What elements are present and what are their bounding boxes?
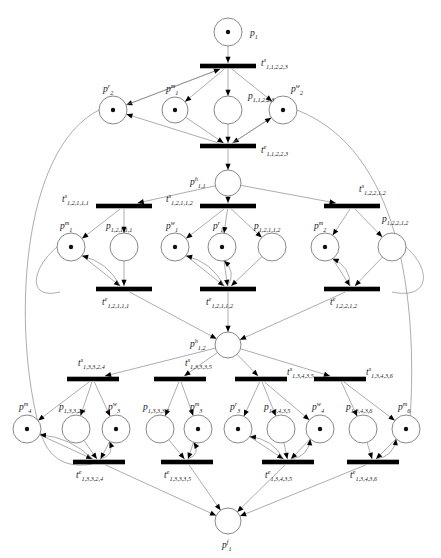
- place-pm-3[interactable]: [184, 415, 212, 443]
- place-pw-1-label: pw1: [165, 219, 178, 233]
- transition-te-13436-bar[interactable]: [347, 460, 399, 465]
- arrowhead-loop-te12212-pm2: [333, 259, 340, 264]
- place-pr-1[interactable]: [208, 233, 236, 261]
- place-pm-6[interactable]: [392, 415, 420, 443]
- place-pw-1[interactable]: [161, 233, 189, 261]
- transition-te-13435[interactable]: [262, 460, 314, 465]
- transition-ts-12112-bar[interactable]: [200, 204, 256, 209]
- place-pw-4[interactable]: [306, 415, 334, 443]
- place-p-13335-circle[interactable]: [146, 415, 174, 443]
- transition-te-11223[interactable]: [200, 144, 256, 149]
- transition-te-13324-bar[interactable]: [73, 460, 125, 465]
- place-pw-4-token: [318, 427, 322, 431]
- transition-te-12212-label: te1,2,2,1,2: [330, 295, 357, 309]
- place-pf-1-circle[interactable]: [215, 508, 241, 534]
- arc-ph11-to-ts12212: [241, 185, 336, 203]
- resource-loop-layer: [40, 255, 398, 459]
- transition-ts-13324[interactable]: [67, 377, 119, 382]
- arrowhead-ts13436-to-pm6: [388, 415, 395, 421]
- transition-te-11223-bar[interactable]: [200, 144, 256, 149]
- transition-te-13335-bar[interactable]: [161, 460, 213, 465]
- transition-te-13435-bar[interactable]: [262, 460, 314, 465]
- place-p-13324-label: p1,3,3,2,4: [58, 402, 85, 414]
- arrowhead-ts11223-to-pm1t: [185, 96, 191, 102]
- arc-ts12111-to-pm1: [82, 209, 120, 238]
- place-pm-1-top-token: [173, 108, 177, 112]
- place-pw-3-label: pw3: [107, 400, 120, 414]
- place-p-11223[interactable]: [214, 96, 242, 124]
- place-p-13324[interactable]: [62, 415, 90, 443]
- transition-ts-13335-bar[interactable]: [154, 377, 206, 382]
- transition-ts-13436-bar[interactable]: [314, 377, 366, 382]
- transition-te-13324[interactable]: [73, 460, 125, 465]
- place-p-13436-circle[interactable]: [349, 415, 377, 443]
- place-pr-1-label: pr1: [212, 219, 223, 233]
- transition-ts-11223-bar[interactable]: [200, 64, 256, 69]
- transition-te-12112-bar[interactable]: [200, 287, 256, 292]
- transition-te-13335[interactable]: [161, 460, 213, 465]
- place-pw-2-token: [281, 108, 285, 112]
- place-ph-11-label: ph1,1: [189, 175, 206, 189]
- transition-ts-13436[interactable]: [314, 377, 366, 382]
- transition-ts-13435[interactable]: [235, 377, 287, 382]
- place-pr-2[interactable]: [99, 96, 127, 124]
- place-pf-1[interactable]: [215, 508, 241, 534]
- arc-te12111-to-ph12: [130, 292, 217, 339]
- transition-te-12111[interactable]: [96, 287, 152, 292]
- transition-ts-13435-bar[interactable]: [235, 377, 287, 382]
- place-pm-6-token: [404, 427, 408, 431]
- place-p-12212[interactable]: [378, 233, 406, 261]
- arrowhead-ts13435-to-pw4: [303, 414, 309, 420]
- arc-ts13436-to-pm6: [344, 382, 395, 421]
- transition-ts-12212[interactable]: [324, 204, 380, 209]
- place-p-13324-circle[interactable]: [62, 415, 90, 443]
- place-pm-4[interactable]: [13, 415, 41, 443]
- place-pm-1-top-label: pm1: [165, 82, 178, 96]
- transition-ts-13324-label: ts1,3,3,2,4: [78, 356, 105, 370]
- place-p-12112-circle[interactable]: [258, 233, 286, 261]
- place-ph-12[interactable]: [215, 332, 241, 358]
- place-p-12212-circle[interactable]: [378, 233, 406, 261]
- arc-te13324-to-pf1: [106, 465, 217, 516]
- place-p-1[interactable]: [214, 18, 242, 46]
- place-ph-11[interactable]: [215, 170, 241, 196]
- place-ph-11-circle[interactable]: [215, 170, 241, 196]
- transition-te-13436-label: te1,3,4,3,6: [350, 468, 378, 482]
- transition-te-12111-bar[interactable]: [96, 287, 152, 292]
- place-pm-4-label: pm4: [18, 400, 31, 414]
- place-p-12111-circle[interactable]: [110, 233, 138, 261]
- transition-te-13335-label: te1,3,3,3,5: [164, 468, 191, 482]
- transition-te-12112[interactable]: [200, 287, 256, 292]
- arrowhead-te11223-to-pw2: [265, 118, 272, 124]
- transition-ts-12111-label: ts1,2,1,1,1: [62, 192, 89, 206]
- transition-te-12212-bar[interactable]: [324, 287, 380, 292]
- place-pm-1[interactable]: [57, 233, 85, 261]
- place-p-11223-circle[interactable]: [214, 96, 242, 124]
- transition-ts-12212-bar[interactable]: [324, 204, 380, 209]
- place-p-13435[interactable]: [267, 415, 295, 443]
- place-p-13436[interactable]: [349, 415, 377, 443]
- place-p-12111[interactable]: [110, 233, 138, 261]
- transition-ts-12111-bar[interactable]: [96, 204, 152, 209]
- place-pr-2-token: [111, 108, 115, 112]
- arrowhead-ph12-to-ts13335: [184, 370, 191, 376]
- place-ph-12-circle[interactable]: [215, 332, 241, 358]
- transition-ts-13324-bar[interactable]: [67, 377, 119, 382]
- place-pr-3-label: pr3: [229, 400, 240, 414]
- place-pr-3[interactable]: [224, 415, 252, 443]
- transition-ts-12112[interactable]: [200, 204, 256, 209]
- place-pm-2[interactable]: [311, 233, 339, 261]
- place-p-13335[interactable]: [146, 415, 174, 443]
- transition-ts-12111[interactable]: [96, 204, 152, 209]
- place-pm-1-top[interactable]: [162, 97, 188, 123]
- place-pw-3[interactable]: [102, 415, 130, 443]
- transition-ts-11223[interactable]: [200, 64, 256, 69]
- place-ph-12-label: ph1,2: [189, 337, 206, 351]
- place-p-12112[interactable]: [258, 233, 286, 261]
- transition-te-13436[interactable]: [347, 460, 399, 465]
- transition-te-12212[interactable]: [324, 287, 380, 292]
- transition-ts-12212-label: ts1,2,2,1,2: [359, 182, 386, 196]
- transition-ts-13335[interactable]: [154, 377, 206, 382]
- arc-pm1t-to-te11223: [186, 117, 224, 143]
- place-p-13435-circle[interactable]: [267, 415, 295, 443]
